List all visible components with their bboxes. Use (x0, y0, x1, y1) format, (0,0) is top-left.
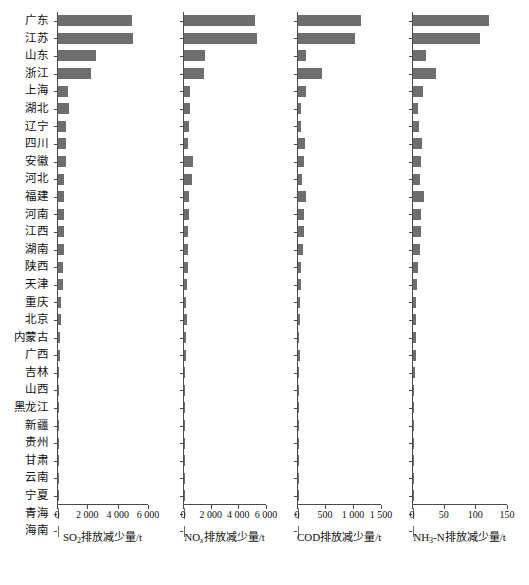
category-label: 山西 (0, 381, 52, 399)
bar-row (298, 364, 381, 382)
bar (184, 490, 185, 501)
y-tick (409, 250, 412, 251)
plot-area-nox (183, 12, 266, 505)
category-label: 山东 (0, 47, 52, 65)
y-tick (294, 408, 297, 409)
bar-series-so2 (58, 12, 148, 505)
bar (58, 262, 63, 273)
y-tick (294, 232, 297, 233)
bar-row (413, 452, 507, 470)
y-tick (409, 21, 412, 22)
y-tick (54, 461, 57, 462)
bar (298, 350, 300, 361)
y-tick (294, 38, 297, 39)
bar (413, 314, 416, 325)
bar-row (413, 12, 507, 30)
y-tick (409, 74, 412, 75)
category-label: 吉林 (0, 364, 52, 382)
bar-row (184, 294, 266, 312)
bar-row (184, 346, 266, 364)
x-tick-labels-cod: 05001 0001 500 (297, 509, 381, 523)
y-tick (409, 478, 412, 479)
y-tick (409, 285, 412, 286)
bar-row (298, 82, 381, 100)
bar-row (184, 241, 266, 259)
bar (58, 33, 133, 44)
bar-row (58, 170, 148, 188)
bar-row (58, 294, 148, 312)
bar-row (413, 153, 507, 171)
y-tick (54, 426, 57, 427)
bar (184, 156, 193, 167)
y-tick (409, 338, 412, 339)
bar (413, 420, 414, 431)
y-tick (180, 285, 183, 286)
category-label: 福建 (0, 188, 52, 206)
bar-row (58, 381, 148, 399)
y-tick (294, 162, 297, 163)
bar (184, 244, 188, 255)
bar (58, 490, 59, 501)
y-tick (409, 197, 412, 198)
y-tick (409, 267, 412, 268)
category-label: 内蒙古 (0, 329, 52, 347)
bar (298, 438, 299, 449)
panel-nh3n: 050100150NH3-N排放减少量/t (412, 12, 507, 505)
x-tick-label: 0 (295, 509, 300, 520)
category-label: 宁夏 (0, 487, 52, 505)
x-tick-label: 1 000 (342, 509, 365, 520)
bar (184, 50, 205, 61)
bar-row (184, 188, 266, 206)
y-tick (294, 250, 297, 251)
x-tick-label: 100 (468, 509, 483, 520)
bar-row (58, 118, 148, 136)
bar (298, 244, 303, 255)
bar (58, 191, 64, 202)
y-tick (294, 74, 297, 75)
y-tick (180, 38, 183, 39)
y-tick (409, 91, 412, 92)
bar-row (413, 241, 507, 259)
bar (298, 367, 299, 378)
bar (184, 33, 257, 44)
bar-row (58, 223, 148, 241)
x-tick-labels-nh3n: 050100150 (412, 509, 507, 523)
bar-row (298, 381, 381, 399)
panel-so2: 02 0004 0006 000SO2排放减少量/t (57, 12, 148, 505)
y-tick (294, 126, 297, 127)
y-tick (409, 426, 412, 427)
y-tick (180, 302, 183, 303)
y-tick (409, 126, 412, 127)
bar-row (413, 329, 507, 347)
x-tick-label: 6 000 (255, 509, 278, 520)
y-tick (180, 461, 183, 462)
bar-row (58, 153, 148, 171)
bar-row (413, 258, 507, 276)
bar (298, 15, 361, 26)
bar (298, 473, 299, 484)
y-tick (409, 461, 412, 462)
x-tick-label: 4 000 (227, 509, 250, 520)
y-tick (180, 179, 183, 180)
category-label: 江西 (0, 223, 52, 241)
bar-row (298, 329, 381, 347)
bar (298, 385, 299, 396)
bar (413, 279, 417, 290)
bar (58, 473, 59, 484)
bar-row (184, 434, 266, 452)
bar-row (58, 188, 148, 206)
bar (58, 367, 59, 378)
category-label: 广西 (0, 346, 52, 364)
y-tick (180, 232, 183, 233)
y-tick (409, 38, 412, 39)
category-label-column: 广东江苏山东浙江上海湖北辽宁四川安徽河北福建河南江西湖南陕西天津重庆北京内蒙古广… (0, 12, 52, 540)
y-tick (180, 74, 183, 75)
bar (184, 367, 185, 378)
category-label: 上海 (0, 82, 52, 100)
bar (58, 244, 64, 255)
bar-row (413, 381, 507, 399)
category-label: 青海 (0, 505, 52, 523)
bar (58, 332, 60, 343)
bar-series-nox (184, 12, 266, 505)
bar (298, 297, 300, 308)
